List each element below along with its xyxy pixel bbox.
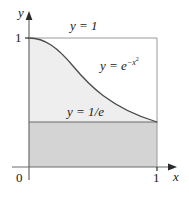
annotation-curve-equation: y = e−x2 [100,56,139,72]
y-axis-label: y [18,6,24,19]
y-axis-arrowhead [26,11,33,20]
annotation-curve-exponent-base: −x [127,58,136,67]
annotation-y-equals-1-over-e: y = 1/e [67,105,104,118]
y-axis-tick-label-1: 1 [15,31,22,44]
origin-tick-label: 0 [16,171,23,184]
x-axis-label: x [173,170,179,183]
annotation-curve-exponent: −x2 [127,58,139,67]
annotation-y-equals-1: y = 1 [70,19,98,32]
annotation-curve-base: y = e [100,58,127,73]
figure-container: y x 0 1 1 y = 1 y = e−x2 y = 1/e [0,0,189,199]
x-axis-tick-label-1: 1 [153,171,160,184]
lower-shaded-region [29,122,157,167]
annotation-curve-exponent-power: 2 [136,56,139,62]
